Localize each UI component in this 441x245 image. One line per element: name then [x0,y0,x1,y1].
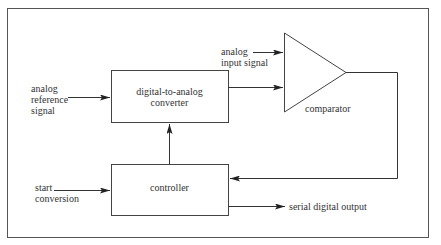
dac-label: digital-to-analog converter [111,86,228,108]
dac-label-line1: digital-to-analog [111,86,228,97]
start-conversion-line1: start [35,182,79,193]
analog-reference-line3: signal [31,105,68,116]
analog-reference-label: analog reference signal [31,83,68,116]
dac-label-line2: converter [111,97,228,108]
analog-input-label: analog input signal [221,46,268,68]
serial-output-label: serial digital output [289,201,367,212]
start-conversion-label: start conversion [35,182,79,204]
diagram-canvas [0,0,441,245]
comparator-triangle [285,33,347,112]
start-conversion-line2: conversion [35,193,79,204]
analog-reference-line1: analog [31,83,68,94]
analog-reference-line2: reference [31,94,68,105]
controller-label: controller [111,182,228,193]
analog-input-line2: input signal [221,57,268,68]
comparator-label: comparator [305,103,351,114]
analog-input-line1: analog [221,46,268,57]
